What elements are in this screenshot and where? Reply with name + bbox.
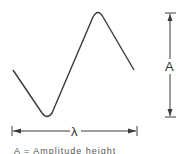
arrow-down-icon xyxy=(168,109,173,116)
wavelength-label: λ xyxy=(70,125,79,138)
waveform-diagram xyxy=(0,0,186,154)
arrow-left-icon xyxy=(13,129,21,134)
arrow-right-icon xyxy=(128,129,136,134)
amplitude-label: A xyxy=(164,60,175,73)
arrow-up-icon xyxy=(168,14,173,21)
wave-curve xyxy=(13,13,134,117)
caption: A = Amplitude height xyxy=(14,146,116,154)
